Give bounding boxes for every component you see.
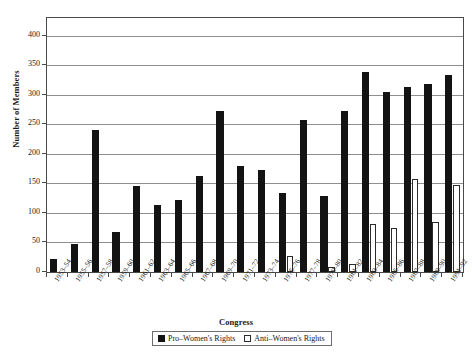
x-axis-tick-mark [233, 273, 234, 277]
bar-pro-womens-rights [300, 120, 307, 272]
bar-pro-womens-rights [133, 186, 140, 272]
y-axis-tick-mark [42, 64, 46, 65]
bar-pro-womens-rights [237, 166, 244, 272]
bar-pro-womens-rights [424, 84, 431, 272]
bar-pro-womens-rights [216, 111, 223, 272]
y-axis-tick-mark [42, 153, 46, 154]
y-axis-tick-label: 350 [2, 59, 40, 68]
y-axis-tick-mark [42, 271, 46, 272]
y-axis-tick-label: 250 [2, 118, 40, 127]
bar-pro-womens-rights [50, 259, 57, 272]
y-axis-tick-label: 150 [2, 177, 40, 186]
y-axis-tick-label: 200 [2, 148, 40, 157]
bar-pro-womens-rights [341, 111, 348, 272]
x-axis-tick-mark [46, 273, 47, 277]
x-axis-tick-mark [108, 273, 109, 277]
legend-item: Anti–Women's Rights [244, 334, 324, 343]
x-axis-tick-mark [171, 273, 172, 277]
filled-square-icon [158, 335, 165, 342]
y-axis-tick-mark [42, 182, 46, 183]
chart-legend: Pro–Women's RightsAnti–Women's Rights [152, 331, 332, 346]
y-axis-tick-label: 0 [2, 266, 40, 275]
bar-pro-womens-rights [92, 130, 99, 272]
legend-item-label: Pro–Women's Rights [168, 334, 235, 343]
x-axis-tick-mark [462, 273, 463, 277]
x-axis-tick-mark [400, 273, 401, 277]
x-axis-tick-mark [192, 273, 193, 277]
bar-anti-womens-rights [453, 185, 459, 272]
y-axis-tick-mark [42, 123, 46, 124]
open-square-icon [244, 335, 251, 342]
y-axis-tick-label: 100 [2, 207, 40, 216]
x-axis-tick-mark [129, 273, 130, 277]
y-axis-tick-label: 300 [2, 89, 40, 98]
x-axis-tick-mark [212, 273, 213, 277]
bar-pro-womens-rights [112, 232, 119, 272]
x-axis-tick-mark [296, 273, 297, 277]
bar-anti-womens-rights [412, 179, 418, 272]
y-axis-tick-mark [42, 35, 46, 36]
legend-item-label: Anti–Women's Rights [254, 334, 324, 343]
x-axis-tick-mark [379, 273, 380, 277]
plot-area [46, 17, 464, 273]
x-axis-tick-mark [358, 273, 359, 277]
x-axis-tick-mark [275, 273, 276, 277]
bars-layer [47, 18, 463, 272]
x-axis-title: Congress [0, 317, 472, 327]
y-axis-tick-label: 50 [2, 236, 40, 245]
y-axis-tick-label: 400 [2, 30, 40, 39]
x-axis-tick-mark [316, 273, 317, 277]
bar-pro-womens-rights [362, 72, 369, 272]
y-axis-tick-mark [42, 212, 46, 213]
x-axis-tick-mark [150, 273, 151, 277]
y-axis-tick-mark [42, 241, 46, 242]
bar-pro-womens-rights [383, 92, 390, 272]
bar-pro-womens-rights [258, 170, 265, 272]
bar-pro-womens-rights [445, 75, 452, 272]
bar-pro-womens-rights [196, 176, 203, 272]
legend-item: Pro–Women's Rights [158, 334, 235, 343]
x-axis-tick-mark [337, 273, 338, 277]
x-axis-tick-mark [441, 273, 442, 277]
x-axis-tick-mark [88, 273, 89, 277]
x-axis-tick-mark [254, 273, 255, 277]
y-axis-tick-mark [42, 94, 46, 95]
bar-pro-womens-rights [71, 244, 78, 272]
chart-figure: Number of Members 0501001502002503003504… [0, 0, 472, 352]
bar-pro-womens-rights [404, 87, 411, 272]
x-axis-tick-mark [67, 273, 68, 277]
x-axis-tick-mark [420, 273, 421, 277]
